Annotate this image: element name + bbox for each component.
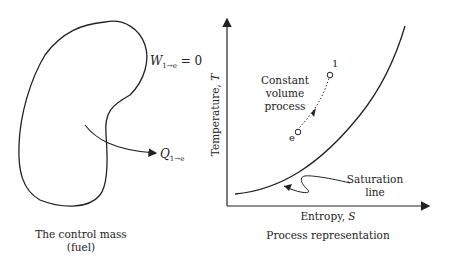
process-label-line2: volume (265, 87, 305, 99)
heat-transfer-arrow (85, 125, 155, 153)
saturation-pointer-arrowhead (284, 184, 292, 191)
x-axis-label: Entropy, S (300, 210, 355, 222)
state-1-label: 1 (332, 58, 338, 69)
y-axis-label: Temperature, T (209, 73, 221, 156)
heat-label: Q1→e (160, 147, 184, 163)
control-mass-boundary (19, 21, 147, 206)
process-representation-caption: Process representation (266, 229, 390, 241)
process-label-line1: Constant (261, 74, 310, 86)
control-mass-caption: The control mass (35, 228, 127, 240)
saturation-label-line2: line (365, 186, 385, 198)
process-label-line3: process (265, 100, 306, 112)
state-e-label: e (289, 132, 295, 143)
saturation-curve (235, 26, 405, 194)
state-1-marker (327, 72, 333, 78)
saturation-line-pointer (284, 176, 350, 193)
saturation-label-line1: Saturation (347, 173, 404, 185)
work-label: W1→e = 0 (150, 54, 202, 70)
state-e-marker (295, 129, 301, 135)
process-direction-arrow (311, 108, 316, 117)
diagram-canvas: W1→e = 0 Q1→e The control mass (fuel) Te… (0, 0, 454, 259)
control-mass-caption-fuel: (fuel) (67, 241, 95, 253)
